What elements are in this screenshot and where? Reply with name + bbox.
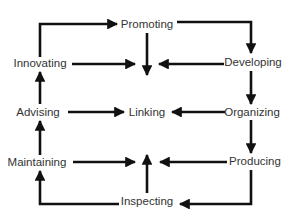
arrow-innovating-to-promoting (40, 24, 117, 57)
node-organizing: Organizing (224, 107, 280, 119)
arrow-producing-to-inspecting (180, 170, 251, 204)
node-maintaining: Maintaining (8, 157, 67, 169)
arrow-promoting-to-developing (177, 22, 251, 53)
node-advising: Advising (16, 107, 59, 119)
node-promoting: Promoting (121, 19, 173, 31)
node-linking: Linking (129, 107, 165, 119)
arrow-inspecting-to-maintaining (40, 171, 119, 204)
node-producing: Producing (229, 156, 281, 168)
node-inspecting: Inspecting (121, 196, 173, 208)
node-developing: Developing (224, 57, 282, 69)
cycle-diagram: Promoting Innovating Developing Advising… (0, 0, 294, 218)
node-innovating: Innovating (13, 58, 66, 70)
